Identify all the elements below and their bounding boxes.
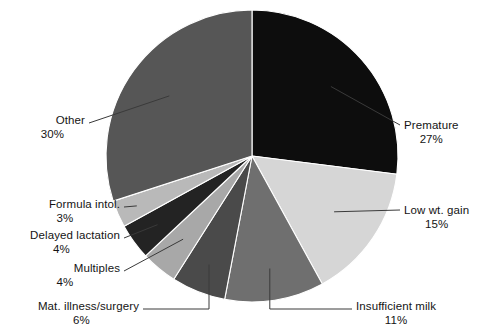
callout-low-wt-gain: Low wt. gain 15% [404, 204, 469, 231]
callout-multiples-label: Multiples [10, 262, 120, 276]
callout-delayed-lactation: Delayed lactation 4% [3, 229, 120, 256]
callout-multiples: Multiples 4% [10, 262, 120, 289]
callout-mat-illness-label: Mat. illness/surgery [24, 300, 139, 314]
callout-premature: Premature 27% [404, 119, 459, 146]
callout-other-percent: 30% [20, 128, 85, 142]
callout-delayed-lactation-label: Delayed lactation [3, 229, 120, 243]
callout-delayed-lactation-percent: 4% [3, 243, 120, 257]
callout-low-wt-gain-label: Low wt. gain [404, 204, 469, 218]
pie-chart: Premature 27% Low wt. gain 15% Insuffici… [0, 0, 478, 334]
callout-other-label: Other [20, 114, 85, 128]
callout-premature-percent: 27% [404, 133, 459, 147]
callout-insufficient-milk-percent: 11% [356, 314, 436, 328]
callout-formula-intol-percent: 3% [10, 212, 120, 226]
pie-slice-group [106, 10, 398, 302]
callout-other: Other 30% [20, 114, 85, 141]
callout-insufficient-milk-label: Insufficient milk [356, 300, 436, 314]
callout-low-wt-gain-percent: 15% [404, 218, 469, 232]
callout-insufficient-milk: Insufficient milk 11% [356, 300, 436, 327]
callout-formula-intol: Formula intol. 3% [10, 198, 120, 225]
callout-premature-label: Premature [404, 119, 459, 133]
callout-multiples-percent: 4% [10, 276, 120, 290]
pie-slice [252, 10, 398, 174]
callout-formula-intol-label: Formula intol. [10, 198, 120, 212]
callout-mat-illness: Mat. illness/surgery 6% [24, 300, 139, 327]
callout-mat-illness-percent: 6% [24, 314, 139, 328]
